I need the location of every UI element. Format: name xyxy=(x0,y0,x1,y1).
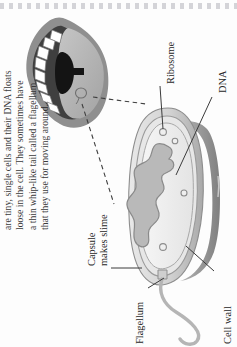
ribosome-dot xyxy=(172,138,178,144)
flagellum-tail xyxy=(161,279,199,344)
body-line-4: that they use for moving around. xyxy=(39,0,51,230)
label-capsule: Capsule makes slime xyxy=(86,214,109,266)
ribosome-dot xyxy=(160,129,167,136)
ribosome-dot xyxy=(181,190,187,196)
body-paragraph: are tiny, single cells and their DNA flo… xyxy=(2,0,54,230)
body-line-3: a thin whip-like tail called a flagellum xyxy=(27,0,39,230)
body-line-2: loose in the cell. They sometimes have xyxy=(14,0,26,230)
ribosome-dot xyxy=(160,244,167,251)
label-dna: DNA xyxy=(217,70,229,93)
label-ribosome: Ribosome xyxy=(165,42,177,84)
label-flagellum: Flagellum xyxy=(134,302,146,344)
body-line-1: are tiny, single cells and their DNA flo… xyxy=(2,0,14,230)
page-canvas: are tiny, single cells and their DNA flo… xyxy=(0,0,237,347)
label-cell-wall: Cell wall xyxy=(222,306,234,344)
label-capsule-line2: makes slime xyxy=(98,214,109,266)
label-capsule-line1: Capsule xyxy=(86,233,97,266)
